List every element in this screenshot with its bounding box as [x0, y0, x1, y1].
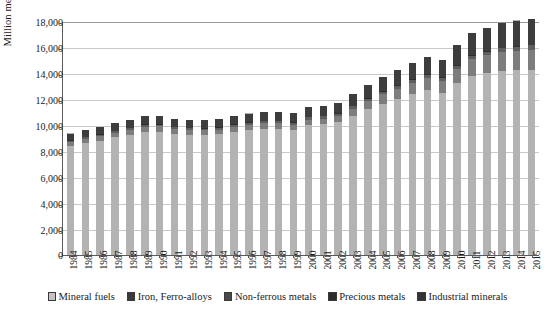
- bar-segment-iron-ferro-alloys: [498, 52, 506, 71]
- chart-legend: Mineral fuelsIron, Ferro-alloysNon-ferro…: [0, 291, 556, 302]
- bar-segment-industrial-minerals: [528, 19, 536, 45]
- stacked-bar: [67, 133, 75, 255]
- bar-segment-industrial-minerals: [439, 60, 447, 77]
- x-axis-tick: 1985: [77, 258, 92, 290]
- x-axis-tick: 1995: [226, 258, 241, 290]
- plot-area: 02,0004,0006,0008,00010,00012,00014,0001…: [62, 22, 539, 256]
- legend-swatch-icon: [128, 293, 135, 300]
- x-axis-tick: 1988: [122, 258, 137, 290]
- bar-segment-iron-ferro-alloys: [453, 69, 461, 84]
- stacked-bar: [528, 19, 536, 256]
- stacked-bar: [275, 112, 283, 255]
- stacked-bar: [260, 112, 268, 255]
- bar-column: [271, 22, 286, 255]
- y-axis-tick-label: 10,000: [11, 122, 63, 132]
- bar-segment-industrial-minerals: [424, 57, 432, 74]
- bar-column: [256, 22, 271, 255]
- x-axis-tick: 1989: [137, 258, 152, 290]
- bar-column: [316, 22, 331, 255]
- x-axis-tick: 2006: [390, 258, 405, 290]
- bar-segment-industrial-minerals: [320, 106, 328, 116]
- legend-swatch-icon: [49, 293, 56, 300]
- x-axis-tick: 1991: [166, 258, 181, 290]
- bar-column: [450, 22, 465, 255]
- bar-column: [509, 22, 524, 255]
- bar-segment-industrial-minerals: [483, 28, 491, 51]
- stacked-bar: [111, 123, 119, 255]
- stacked-bar: [334, 103, 342, 255]
- legend-item-iron-ferro-alloys[interactable]: Iron, Ferro-alloys: [128, 291, 212, 302]
- legend-item-non-ferrous-metals[interactable]: Non-ferrous metals: [225, 291, 316, 302]
- bar-segment-mineral-fuels: [513, 70, 521, 255]
- stacked-bar: [364, 85, 372, 255]
- x-axis-tick: 2013: [494, 258, 509, 290]
- legend-label: Non-ferrous metals: [235, 291, 316, 302]
- x-axis-tick: 1994: [211, 258, 226, 290]
- bar-column: [197, 22, 212, 255]
- bar-column: [242, 22, 257, 255]
- bar-segment-industrial-minerals: [513, 21, 521, 46]
- bar-segment-mineral-fuels: [453, 83, 461, 255]
- x-axis-tick: 2010: [450, 258, 465, 290]
- bar-segment-mineral-fuels: [424, 90, 432, 255]
- x-axis-tick: 1992: [181, 258, 196, 290]
- bar-segment-mineral-fuels: [394, 99, 402, 255]
- bar-column: [494, 22, 509, 255]
- y-axis-tick-label: 18,000: [11, 18, 63, 28]
- bar-segment-industrial-minerals: [201, 120, 209, 128]
- bar-column: [301, 22, 316, 255]
- legend-item-industrial-minerals[interactable]: Industrial minerals: [418, 291, 507, 302]
- bar-segment-iron-ferro-alloys: [364, 101, 372, 109]
- legend-item-precious-metals[interactable]: Precious metals: [329, 291, 405, 302]
- bar-segment-industrial-minerals: [171, 119, 179, 127]
- y-axis-tick-label: 12,000: [11, 96, 63, 106]
- bar-segment-mineral-fuels: [349, 116, 357, 255]
- bar-segment-industrial-minerals: [379, 77, 387, 91]
- stacked-bar: [409, 63, 417, 255]
- bar-segment-mineral-fuels: [96, 141, 104, 255]
- stacked-bar: [230, 116, 238, 255]
- x-axis-tick: 1986: [92, 258, 107, 290]
- x-axis-tick: 2005: [375, 258, 390, 290]
- x-axis-tick: 1998: [271, 258, 286, 290]
- bar-column: [420, 22, 435, 255]
- y-axis-tick-label: 8,000: [11, 148, 63, 158]
- bar-column: [123, 22, 138, 255]
- bar-column: [375, 22, 390, 255]
- x-axis-tick: 2004: [360, 258, 375, 290]
- bar-column: [524, 22, 539, 255]
- stacked-bar: [498, 23, 506, 255]
- bar-column: [108, 22, 123, 255]
- bar-segment-mineral-fuels: [186, 135, 194, 255]
- x-axis-tick: 2002: [330, 258, 345, 290]
- x-axis-tick: 1993: [196, 258, 211, 290]
- bar-segment-mineral-fuels: [156, 132, 164, 255]
- bar-segment-industrial-minerals: [126, 120, 134, 128]
- legend-label: Mineral fuels: [59, 291, 115, 302]
- stacked-bar: [126, 120, 134, 255]
- legend-item-mineral-fuels[interactable]: Mineral fuels: [49, 291, 115, 302]
- x-axis-tick: 2011: [464, 258, 479, 290]
- bar-segment-iron-ferro-alloys: [439, 81, 447, 93]
- bar-segment-industrial-minerals: [156, 116, 164, 124]
- bar-segment-industrial-minerals: [453, 45, 461, 65]
- bar-column: [390, 22, 405, 255]
- bar-segment-mineral-fuels: [334, 122, 342, 255]
- stacked-bar: [394, 70, 402, 255]
- stacked-bar: [156, 116, 164, 255]
- y-axis-tick-label: 16,000: [11, 44, 63, 54]
- bar-segment-industrial-minerals: [260, 112, 268, 121]
- stacked-bar: [453, 45, 461, 255]
- bar-segment-mineral-fuels: [245, 130, 253, 255]
- bar-segment-mineral-fuels: [409, 94, 417, 255]
- bar-segment-industrial-minerals: [364, 85, 372, 98]
- bar-segment-industrial-minerals: [186, 120, 194, 128]
- y-axis-tick-label: 14,000: [11, 70, 63, 80]
- bar-column: [152, 22, 167, 255]
- stacked-bar: [245, 113, 253, 255]
- stacked-bar: [513, 20, 521, 255]
- y-axis-tick-label: 6,000: [11, 174, 63, 184]
- x-axis-tick: 2001: [315, 258, 330, 290]
- bar-segment-mineral-fuels: [305, 125, 313, 255]
- bar-column: [346, 22, 361, 255]
